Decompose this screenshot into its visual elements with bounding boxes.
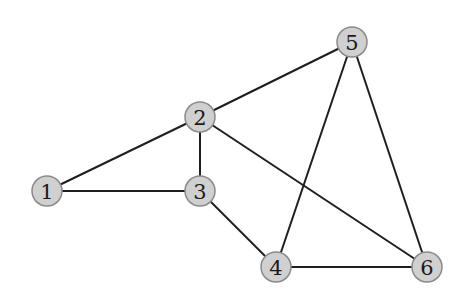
node-3: 3 [185,176,215,206]
node-5: 5 [337,27,367,57]
node-label: 5 [345,31,358,55]
node-4: 4 [261,252,291,282]
graph-nodes: 123456 [32,27,442,282]
graph-diagram: 123456 [0,0,472,302]
node-6: 6 [412,252,442,282]
node-2: 2 [185,102,215,132]
node-label: 6 [420,256,433,280]
graph-edges [47,42,427,267]
node-1: 1 [32,176,62,206]
edge-5-6 [352,42,427,267]
edge-3-4 [200,191,276,267]
node-label: 4 [269,256,282,280]
node-label: 2 [193,106,206,130]
edge-1-2 [47,117,200,191]
edge-4-5 [276,42,352,267]
edge-2-5 [200,42,352,117]
node-label: 1 [40,180,53,204]
node-label: 3 [193,180,206,204]
edge-2-6 [200,117,427,267]
